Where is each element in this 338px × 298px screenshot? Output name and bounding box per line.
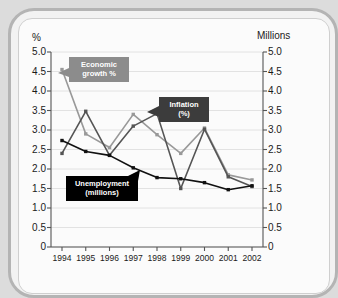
right-tick-label: 2.5 xyxy=(268,144,298,155)
left-tick-label: 2.0 xyxy=(20,163,46,174)
right-tick-label: 5.0 xyxy=(268,46,298,57)
left-tick-label: 2.5 xyxy=(20,144,46,155)
axis-ticks xyxy=(47,52,267,251)
right-tick-label: 0.5 xyxy=(268,222,298,233)
right-tick-label: 2.0 xyxy=(268,163,298,174)
right-tick-label: 3.0 xyxy=(268,124,298,135)
left-axis-title: % xyxy=(32,32,41,43)
left-tick-label: 5.0 xyxy=(20,46,46,57)
left-tick-label: 3.0 xyxy=(20,124,46,135)
right-tick-label: 1.0 xyxy=(268,202,298,213)
right-tick-label: 3.5 xyxy=(268,105,298,116)
annotation-economic-growth: Economic growth % xyxy=(69,57,129,82)
annotation-unemployment: Unemployment (millions) xyxy=(66,176,138,201)
right-tick-label: 4.5 xyxy=(268,66,298,77)
right-tick-label: 4.0 xyxy=(268,85,298,96)
annotation-inflation: Inflation (%) xyxy=(159,97,209,122)
series-economic-growth xyxy=(60,68,253,182)
left-tick-label: 4.5 xyxy=(20,66,46,77)
left-tick-label: 0 xyxy=(20,241,46,252)
right-tick-label: 1.5 xyxy=(268,183,298,194)
left-tick-label: 0.5 xyxy=(20,222,46,233)
right-axis-title: Millions xyxy=(257,30,290,41)
left-tick-label: 1.0 xyxy=(20,202,46,213)
left-tick-label: 3.5 xyxy=(20,105,46,116)
right-tick-label: 0 xyxy=(268,241,298,252)
left-tick-label: 4.0 xyxy=(20,85,46,96)
left-tick-label: 1.5 xyxy=(20,183,46,194)
x-tick-label: 2002 xyxy=(237,253,267,263)
